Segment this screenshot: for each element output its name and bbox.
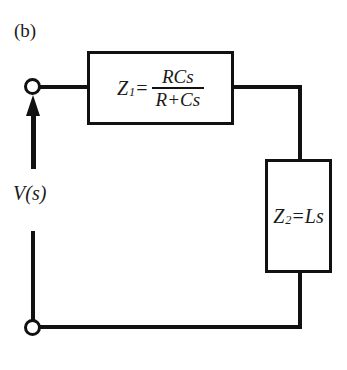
z1-equation: Z1= RCs R+Cs	[117, 67, 204, 109]
wire-z2-bottom-to-rail	[298, 271, 302, 329]
wire-z1-to-corner	[231, 85, 302, 89]
z1-denominator: R+Cs	[152, 89, 205, 109]
panel-label: (b)	[14, 20, 36, 42]
z1-subscript: 1	[129, 86, 135, 98]
impedance-block-z1: Z1= RCs R+Cs	[87, 51, 234, 125]
source-label: V(s)	[13, 182, 46, 205]
z1-numerator: RCs	[158, 67, 198, 87]
z2-equation: Z2=Ls	[273, 206, 324, 226]
z2-equals: =	[292, 206, 305, 226]
z1-fraction: RCs R+Cs	[152, 67, 205, 109]
wire-left-lower	[31, 231, 35, 325]
wire-bottom-rail	[33, 325, 302, 329]
z1-symbol: Z	[117, 78, 129, 98]
z2-subscript: 2	[285, 214, 291, 226]
source-arrow-head-icon	[26, 95, 40, 116]
circuit-diagram-figure: (b) V(s) Z1= RCs R+Cs Z2=Ls	[0, 0, 347, 370]
z2-symbol: Z	[273, 206, 285, 226]
wire-corner-to-z2-top	[298, 85, 302, 161]
z1-equals: =	[135, 78, 148, 98]
impedance-block-z2: Z2=Ls	[265, 159, 332, 273]
source-arrow-shaft	[31, 113, 36, 169]
wire-terminal-top-to-z1	[39, 85, 89, 89]
terminal-node-bottom	[24, 319, 41, 336]
z2-value: Ls	[305, 206, 324, 226]
terminal-node-top	[24, 78, 41, 95]
